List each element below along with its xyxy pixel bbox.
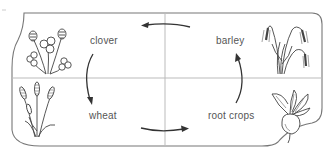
- beet-root-icon: [268, 86, 314, 144]
- wheat-plant-icon: [15, 81, 61, 139]
- node-label-wheat: wheat: [89, 110, 117, 121]
- crop-rotation-diagram: clover barley wheat root crops: [0, 0, 327, 153]
- node-label-barley: barley: [216, 35, 244, 46]
- clover-plant-icon: [24, 28, 74, 78]
- node-label-root-crops: root crops: [208, 110, 254, 121]
- node-label-clover: clover: [90, 35, 118, 46]
- barley-plant-icon: [260, 16, 310, 76]
